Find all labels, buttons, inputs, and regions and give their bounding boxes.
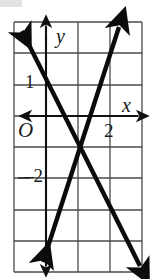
y-tick-label-negative-2: –2 — [24, 166, 43, 185]
origin-label: O — [18, 120, 33, 141]
figure-coordinate-plane: y x 1 O 2 –2 — [0, 0, 154, 279]
y-tick-label-1: 1 — [25, 72, 35, 91]
y-axis-label: y — [56, 26, 65, 46]
line-positive-slope — [43, 27, 119, 262]
x-axis-label: x — [122, 95, 131, 115]
x-tick-label-2: 2 — [104, 121, 114, 140]
